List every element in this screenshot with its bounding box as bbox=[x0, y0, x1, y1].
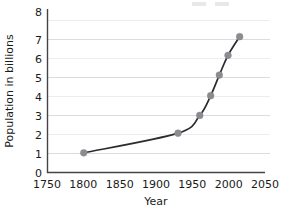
population-line-chart: 0 1 2 3 4 5 6 7 8 1750 1800 1850 1900 19… bbox=[0, 0, 285, 209]
data-point-marker bbox=[225, 52, 232, 59]
x-tick-label: 1950 bbox=[178, 178, 206, 191]
y-tick-label: 6 bbox=[35, 53, 42, 66]
series-line bbox=[84, 37, 240, 153]
y-tick-label: 4 bbox=[35, 91, 42, 104]
axis-lines bbox=[48, 9, 266, 173]
y-tick-label: 5 bbox=[35, 72, 42, 85]
data-series bbox=[80, 33, 243, 156]
x-axis-title: Year bbox=[143, 195, 168, 208]
y-axis-title: Population in billions bbox=[3, 34, 16, 148]
y-tick-label: 3 bbox=[35, 110, 42, 123]
data-point-marker bbox=[80, 149, 87, 156]
x-tick-label: 1800 bbox=[69, 178, 97, 191]
y-tick-label: 8 bbox=[35, 6, 42, 19]
x-tick-label: 1900 bbox=[142, 178, 170, 191]
y-tick-label: 2 bbox=[35, 129, 42, 142]
y-tick-label: 7 bbox=[35, 34, 42, 47]
data-point-marker bbox=[196, 112, 203, 119]
x-tick-label: 1750 bbox=[33, 178, 61, 191]
data-point-marker bbox=[216, 72, 223, 79]
y-axis-tick-labels: 0 1 2 3 4 5 6 7 8 bbox=[35, 6, 42, 180]
cropped-title-artifact bbox=[192, 2, 229, 6]
x-axis-tick-labels: 1750 1800 1850 1900 1950 2000 2050 bbox=[33, 178, 279, 191]
x-tick-label: 2050 bbox=[251, 178, 279, 191]
x-tick-label: 1850 bbox=[106, 178, 134, 191]
y-tick-label: 1 bbox=[35, 148, 42, 161]
data-point-marker bbox=[175, 130, 182, 137]
data-point-marker bbox=[236, 33, 243, 40]
chart-figure: 0 1 2 3 4 5 6 7 8 1750 1800 1850 1900 19… bbox=[0, 0, 285, 209]
x-tick-label: 2000 bbox=[215, 178, 243, 191]
data-point-marker bbox=[207, 92, 214, 99]
